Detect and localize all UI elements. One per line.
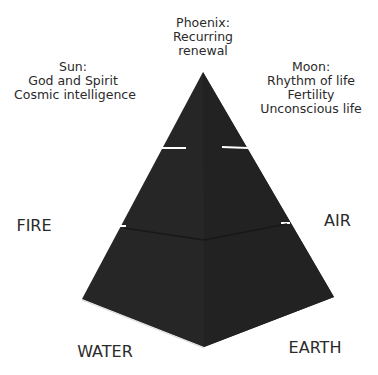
phoenix-line-3: renewal bbox=[161, 44, 245, 58]
sun-title: Sun: bbox=[14, 60, 132, 74]
phoenix-line-1: Phoenix: bbox=[161, 16, 245, 30]
phoenix-label: Phoenix: Recurring renewal bbox=[161, 16, 245, 58]
water-label: WATER bbox=[70, 343, 140, 361]
sun-line-1: God and Spirit bbox=[14, 74, 132, 88]
sun-label: Sun: God and Spirit Cosmic intelligence bbox=[14, 60, 132, 102]
fire-label: FIRE bbox=[4, 217, 64, 235]
moon-line-3: Unconscious life bbox=[256, 102, 366, 116]
moon-title: Moon: bbox=[256, 60, 366, 74]
moon-line-2: Fertility bbox=[256, 88, 366, 102]
moon-line-1: Rhythm of life bbox=[256, 74, 366, 88]
phoenix-line-2: Recurring bbox=[161, 30, 245, 44]
air-label: AIR bbox=[315, 212, 360, 230]
sun-line-2: Cosmic intelligence bbox=[14, 88, 132, 102]
moon-label: Moon: Rhythm of life Fertility Unconscio… bbox=[256, 60, 366, 116]
earth-label: EARTH bbox=[280, 339, 350, 357]
tier-separator-top-right bbox=[222, 147, 248, 148]
